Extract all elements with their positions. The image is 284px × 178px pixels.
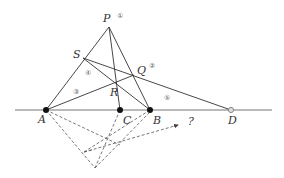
marker-3: ③ — [73, 88, 79, 96]
label-S: S — [73, 48, 81, 61]
line-SD — [83, 58, 231, 110]
marker-1: ① — [117, 12, 123, 20]
projective-geometry-diagram: P ① S ④ Q ② R ③ ⑤ A C B D ? — [0, 0, 284, 178]
arrow-question-label: ? — [188, 115, 194, 128]
point-C — [117, 107, 123, 113]
label-R: R — [109, 86, 118, 99]
label-Q: Q — [137, 64, 146, 77]
label-A: A — [37, 113, 46, 126]
label-B: B — [152, 114, 161, 127]
label-C: C — [123, 114, 132, 127]
marker-5: ⑤ — [164, 94, 170, 102]
marker-4: ④ — [85, 69, 91, 77]
label-D: D — [227, 114, 237, 127]
marker-2: ② — [149, 62, 155, 70]
label-P: P — [102, 12, 111, 25]
point-D — [228, 107, 233, 112]
point-B — [147, 107, 153, 113]
